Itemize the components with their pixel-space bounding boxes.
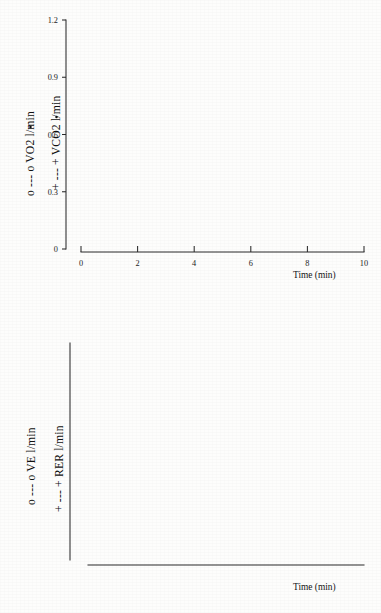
vo2-overdot-icon [29, 126, 32, 129]
x-tick-label: 2 [136, 259, 140, 268]
figure-page: 00.30.60.91.2 0246810 o --- o VO2 l/min … [0, 0, 381, 613]
ve-rer-plot-main: o --- o VE l/min + --- + RER l/min Time … [0, 300, 381, 613]
series-label-vco2: + --- + VCO2 l/min [50, 96, 63, 190]
chart-panel-ve-rer: o --- o VE l/min + --- + RER l/min Time … [0, 300, 381, 613]
x-axis-title: Time (min) [293, 582, 336, 593]
series-label-ve: o --- o VE l/min [25, 427, 38, 505]
series-label-rer: + --- + RER l/min [53, 425, 66, 512]
y-tick-label: 0.9 [48, 73, 58, 82]
vco2-overdot-icon [55, 116, 58, 119]
chart-panel-vo2-vco2: 00.30.60.91.2 0246810 o --- o VO2 l/min … [0, 0, 381, 300]
x-tick-label: 10 [360, 259, 368, 268]
series-label-vo2: o --- o VO2 l/min [24, 111, 37, 196]
x-axis-ticks: 0246810 [79, 246, 368, 268]
y-tick-label: 0 [54, 245, 58, 254]
x-tick-label: 0 [79, 259, 83, 268]
y-tick-label: 1.2 [48, 16, 58, 25]
x-tick-label: 4 [192, 259, 197, 268]
x-tick-label: 6 [249, 259, 253, 268]
x-axis-title: Time (min) [293, 270, 336, 281]
x-tick-label: 8 [305, 259, 309, 268]
vo2-vco2-plot: 00.30.60.91.2 0246810 o --- o VO2 l/min … [0, 0, 381, 300]
